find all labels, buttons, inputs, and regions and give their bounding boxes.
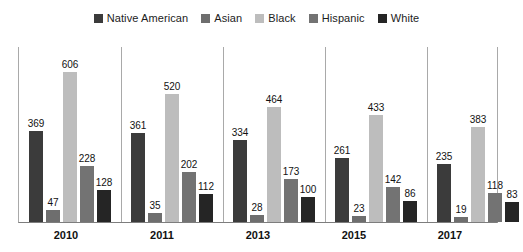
x-axis-labels: 20102011201320152017: [18, 228, 498, 244]
bar[interactable]: [199, 194, 213, 222]
bar[interactable]: [131, 133, 145, 222]
bar-value-label: 369: [28, 119, 45, 129]
bar-slot: 261: [335, 47, 349, 222]
bar-slot: 118: [488, 47, 502, 222]
bar-slot: 235: [437, 47, 451, 222]
bar-value-label: 235: [436, 152, 453, 162]
bar-slot: 35: [148, 47, 162, 222]
bar-value-label: 383: [470, 115, 487, 125]
bar-group: 33428464173100: [223, 47, 325, 222]
bar-slot: 23: [352, 47, 366, 222]
bar-slot: 606: [63, 47, 77, 222]
bar[interactable]: [335, 158, 349, 222]
bar[interactable]: [29, 131, 43, 222]
bar-value-label: 100: [300, 185, 317, 195]
bar[interactable]: [182, 172, 196, 222]
legend-item-label: White: [391, 13, 420, 24]
bar-value-label: 464: [266, 95, 283, 105]
legend-swatch-icon: [201, 14, 210, 23]
bar-slot: 369: [29, 47, 43, 222]
legend-item[interactable]: Asian: [201, 13, 242, 24]
legend-item-label: Hispanic: [322, 13, 365, 24]
legend-item[interactable]: Native American: [94, 13, 189, 24]
bar[interactable]: [148, 213, 162, 222]
bar-value-label: 86: [404, 189, 415, 199]
bar-slot: 520: [165, 47, 179, 222]
bar-group: 36947606228128: [19, 47, 121, 222]
bar-slot: 112: [199, 47, 213, 222]
legend-item[interactable]: White: [378, 13, 420, 24]
bar-value-label: 261: [334, 146, 351, 156]
legend-swatch-icon: [255, 14, 264, 23]
bar-slot: 383: [471, 47, 485, 222]
x-axis-tick-label: 2011: [114, 228, 210, 244]
x-axis-tick-label: 2017: [402, 228, 498, 244]
bar-value-label: 128: [96, 178, 113, 188]
bar-slot: 128: [97, 47, 111, 222]
bar-slot: 28: [250, 47, 264, 222]
bar[interactable]: [165, 94, 179, 222]
x-axis-tick-label: 2013: [210, 228, 306, 244]
x-axis-tick-label: 2010: [18, 228, 114, 244]
bar-slot: 334: [233, 47, 247, 222]
bar-value-label: 47: [47, 198, 58, 208]
bar[interactable]: [454, 217, 468, 222]
bar[interactable]: [97, 190, 111, 222]
legend-swatch-icon: [309, 14, 318, 23]
bar-group: 2612343314286: [325, 47, 427, 222]
bar-slot: 83: [505, 47, 519, 222]
bar[interactable]: [437, 164, 451, 222]
bar[interactable]: [471, 127, 485, 222]
bar[interactable]: [284, 179, 298, 222]
plot-area: 3694760622812836135520202112334284641731…: [18, 47, 498, 223]
bar-slot: 228: [80, 47, 94, 222]
bar-slot: 142: [386, 47, 400, 222]
bar[interactable]: [80, 166, 94, 222]
chart-legend: Native AmericanAsianBlackHispanicWhite: [0, 9, 513, 27]
bar-slot: 173: [284, 47, 298, 222]
bar-value-label: 202: [181, 160, 198, 170]
bar-slot: 86: [403, 47, 417, 222]
legend-item-label: Black: [268, 13, 295, 24]
bar-slot: 464: [267, 47, 281, 222]
bar[interactable]: [352, 216, 366, 222]
bar[interactable]: [488, 193, 502, 222]
bar-value-label: 35: [149, 201, 160, 211]
bar-value-label: 334: [232, 128, 249, 138]
legend-item[interactable]: Hispanic: [309, 13, 365, 24]
bar-group: 2351938311883: [427, 47, 523, 222]
bar[interactable]: [63, 72, 77, 222]
bar-value-label: 23: [353, 204, 364, 214]
bar-slot: 202: [182, 47, 196, 222]
bar-slot: 361: [131, 47, 145, 222]
legend-swatch-icon: [378, 14, 387, 23]
bar[interactable]: [46, 210, 60, 222]
bar-slot: 19: [454, 47, 468, 222]
bar[interactable]: [250, 215, 264, 222]
bar[interactable]: [403, 201, 417, 222]
bar-value-label: 433: [368, 103, 385, 113]
bar-value-label: 28: [251, 203, 262, 213]
bar-value-label: 112: [198, 182, 214, 192]
legend-swatch-icon: [94, 14, 103, 23]
bar-slot: 433: [369, 47, 383, 222]
bar[interactable]: [505, 202, 519, 222]
bar[interactable]: [369, 115, 383, 222]
x-axis-tick-label: 2015: [306, 228, 402, 244]
bar-value-label: 606: [62, 60, 79, 70]
bar[interactable]: [267, 107, 281, 222]
bar-value-label: 173: [283, 167, 300, 177]
bar-group: 36135520202112: [121, 47, 223, 222]
bar-value-label: 361: [130, 121, 147, 131]
legend-item[interactable]: Black: [255, 13, 295, 24]
bar[interactable]: [233, 140, 247, 222]
bar[interactable]: [386, 187, 400, 222]
legend-item-label: Native American: [107, 13, 189, 24]
bar-value-label: 228: [79, 154, 96, 164]
bar-value-label: 118: [487, 181, 503, 191]
bar[interactable]: [301, 197, 315, 222]
bar-value-label: 19: [455, 205, 466, 215]
legend-item-label: Asian: [214, 13, 242, 24]
bar-value-label: 142: [385, 175, 402, 185]
